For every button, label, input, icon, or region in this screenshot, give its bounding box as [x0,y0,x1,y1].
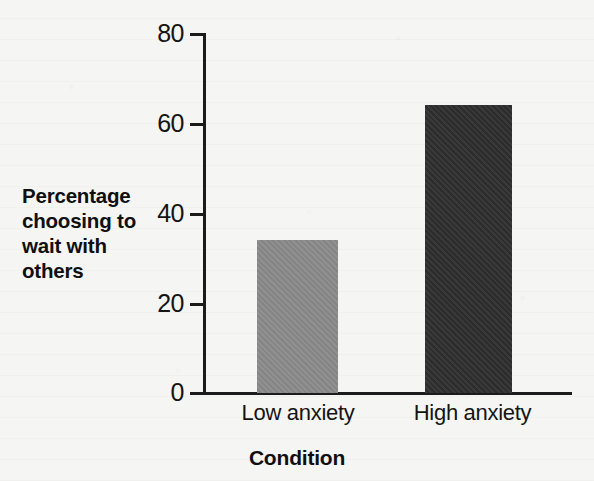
y-axis-title-line-3: wait with [22,233,160,258]
y-axis-title: Percentage choosing to wait with others [22,183,160,283]
x-tick-label-low-anxiety: Low anxiety [213,400,383,426]
plot-area: 80 60 40 20 0 Percentage choosing to wai… [0,0,594,481]
bar-chart-figure: 80 60 40 20 0 Percentage choosing to wai… [0,0,594,481]
y-axis-title-line-2: choosing to [22,208,160,233]
y-axis-title-line-1: Percentage [22,183,160,208]
x-axis-title: Condition [0,446,594,470]
bar-low-anxiety[interactable] [257,240,338,393]
y-axis-title-line-4: others [22,258,160,283]
x-tick-label-high-anxiety: High anxiety [385,400,560,426]
bar-high-anxiety[interactable] [425,105,512,393]
